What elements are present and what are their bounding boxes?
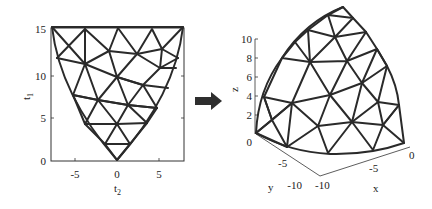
z-tick-label: 6 <box>247 71 253 83</box>
x-tick-label: -5 <box>70 168 80 180</box>
figure-canvas: -5 0 5 0 5 10 15 t2 t1 <box>0 0 432 209</box>
x-tick-label: 5 <box>156 168 162 180</box>
y-tick-label: 0 <box>41 155 47 167</box>
z-tick-label: 4 <box>247 90 253 102</box>
z-tick-label: 2 <box>247 109 253 121</box>
y-tick-label: 10 <box>35 70 47 82</box>
right-plot: 10 8 6 4 2 0 z -5 -10 y -10 -5 0 x <box>228 7 415 194</box>
z-tick-label: 10 <box>241 33 253 45</box>
y-tick-label: 15 <box>35 23 47 35</box>
left-mesh <box>52 27 183 160</box>
z-tick-label: 0 <box>247 136 253 148</box>
y-tick-label: 5 <box>41 112 47 124</box>
z-axis-label: z <box>228 87 240 92</box>
left-plot: -5 0 5 0 5 10 15 t2 t1 <box>20 23 184 197</box>
right-arrow-icon <box>195 92 222 110</box>
x-axis-label: t2 <box>114 182 121 197</box>
y-axis-label: y <box>268 181 274 193</box>
right-mesh <box>256 7 404 154</box>
x-tick-label: 0 <box>114 168 120 180</box>
y-tick-label: -10 <box>287 179 302 191</box>
x-tick-label: -5 <box>369 162 379 174</box>
y-tick-label: -5 <box>278 157 288 169</box>
x-axis-label: x <box>373 182 379 194</box>
x-tick-label: 0 <box>409 149 415 161</box>
y-axis-label: t1 <box>20 93 35 100</box>
x-tick-label: -10 <box>315 179 330 191</box>
z-tick-label: 8 <box>247 52 253 64</box>
